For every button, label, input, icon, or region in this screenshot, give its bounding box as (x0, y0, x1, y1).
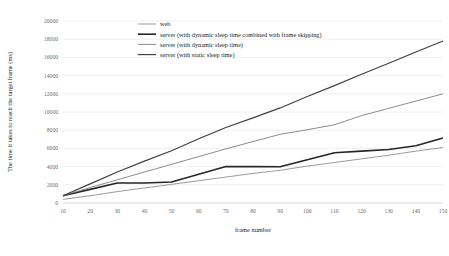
y-tick-label: 2000 (47, 182, 58, 188)
y-axis-title: The time it takes to reach the target fr… (6, 52, 14, 172)
line-chart: 0200040006000800010000120001400016000180… (0, 0, 449, 256)
x-tick-label: 150 (439, 208, 448, 214)
y-tick-label: 16000 (44, 54, 58, 60)
x-tick-label: 80 (250, 208, 256, 214)
x-axis-title: frame number (235, 226, 272, 233)
x-tick-label: 20 (87, 208, 93, 214)
legend-label-0: web (160, 20, 171, 27)
x-tick-label: 50 (169, 208, 175, 214)
y-tick-label: 10000 (44, 109, 58, 115)
x-tick-label: 110 (330, 208, 338, 214)
x-axis-tick-labels: 102030405060708090100110120130140150 (60, 208, 447, 214)
y-tick-label: 0 (55, 200, 58, 206)
legend-label-1: server (with dynamic sleep time combined… (160, 31, 322, 39)
y-tick-label: 18000 (44, 36, 58, 42)
x-tick-label: 60 (196, 208, 202, 214)
x-tick-label: 90 (277, 208, 283, 214)
chart-canvas: 0200040006000800010000120001400016000180… (0, 0, 449, 256)
x-tick-label: 70 (223, 208, 229, 214)
y-tick-label: 12000 (44, 91, 58, 97)
x-tick-label: 120 (357, 208, 366, 214)
x-tick-label: 130 (385, 208, 394, 214)
y-tick-label: 6000 (47, 145, 58, 151)
y-tick-label: 20000 (44, 18, 58, 24)
x-tick-label: 40 (142, 208, 148, 214)
x-tick-label: 100 (303, 208, 312, 214)
x-tick-label: 30 (114, 208, 120, 214)
y-tick-label: 8000 (47, 127, 58, 133)
x-tick-label: 140 (412, 208, 421, 214)
legend-label-3: server (with static sleep time) (160, 51, 235, 59)
y-tick-label: 4000 (47, 164, 58, 170)
x-tick-label: 10 (60, 208, 66, 214)
y-tick-label: 14000 (44, 73, 58, 79)
legend-label-2: server (with dynamic sleep time) (160, 41, 243, 49)
